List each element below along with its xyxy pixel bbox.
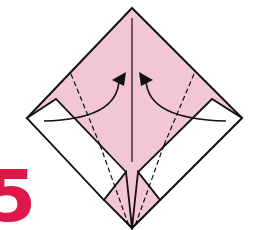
diagram-canvas	[0, 0, 253, 230]
origami-diagram: 5	[0, 0, 253, 230]
step-number: 5	[0, 160, 36, 230]
